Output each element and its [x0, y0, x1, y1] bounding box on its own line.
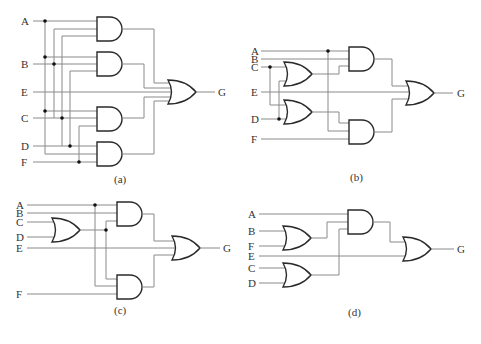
or-gate-c1 — [52, 218, 80, 242]
circuit-panel-d: A B F E C D G (d) — [248, 208, 465, 319]
input-label-d-C: C — [248, 262, 255, 274]
and-gate-a2 — [97, 52, 122, 76]
output-label-b-G: G — [457, 87, 465, 99]
input-label-c-F: F — [16, 288, 22, 300]
input-label-a-A: A — [21, 15, 29, 27]
or-gate-b-final — [406, 81, 434, 105]
and-gate-a3 — [97, 107, 122, 131]
caption-a: (a) — [114, 173, 127, 186]
and-gate-a4 — [97, 142, 122, 166]
or-gate-d1 — [283, 226, 311, 250]
input-label-a-C: C — [21, 112, 28, 124]
and-gate-c1 — [117, 202, 142, 226]
input-label-d-D: D — [248, 277, 256, 289]
circuit-panel-c: A B C D E F G (c) — [16, 199, 231, 317]
caption-c: (c) — [114, 304, 127, 317]
output-label-c-G: G — [223, 242, 231, 254]
input-label-d-A: A — [248, 208, 256, 220]
and-gate-c2 — [117, 275, 142, 299]
or-gate-c-final — [172, 236, 200, 260]
and-gate-b2 — [349, 120, 374, 144]
circuit-panel-a: A B E C D F — [21, 15, 226, 186]
input-label-c-C: C — [16, 216, 23, 228]
input-label-d-B: B — [248, 225, 255, 237]
input-label-b-C: C — [251, 61, 258, 73]
input-label-b-F: F — [251, 133, 257, 145]
output-label-d-G: G — [457, 243, 465, 255]
input-label-c-E: E — [16, 242, 23, 254]
input-label-b-D: D — [251, 113, 259, 125]
input-label-a-D: D — [21, 140, 29, 152]
output-label-a-G: G — [218, 86, 226, 98]
or-gate-d-final — [403, 237, 431, 261]
input-label-d-E: E — [248, 250, 255, 262]
or-gate-a — [168, 80, 196, 104]
and-gate-d1 — [348, 210, 373, 234]
or-gate-d2 — [283, 263, 311, 287]
and-gate-a1 — [97, 17, 122, 41]
caption-b: (b) — [350, 171, 363, 184]
input-label-a-F: F — [21, 156, 27, 168]
input-label-a-B: B — [21, 58, 28, 70]
input-label-a-E: E — [21, 86, 28, 98]
caption-d: (d) — [348, 306, 361, 319]
circuit-panel-b: A B C E D F — [251, 45, 465, 184]
or-gate-b1 — [284, 62, 312, 86]
input-label-b-E: E — [251, 86, 258, 98]
and-gate-b1 — [349, 47, 374, 71]
or-gate-b2 — [284, 100, 312, 124]
